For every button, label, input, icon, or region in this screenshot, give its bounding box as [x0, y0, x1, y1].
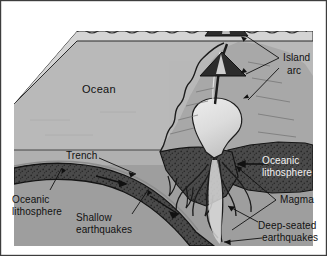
- subduction-zone-diagram: Ocean Island arc Trench Oceanic lithosph…: [0, 0, 327, 256]
- emergent-volcano-vent: [222, 10, 230, 34]
- eruption-plume: [214, 0, 259, 16]
- diagram-canvas: [0, 0, 327, 256]
- block-body: [0, 0, 327, 256]
